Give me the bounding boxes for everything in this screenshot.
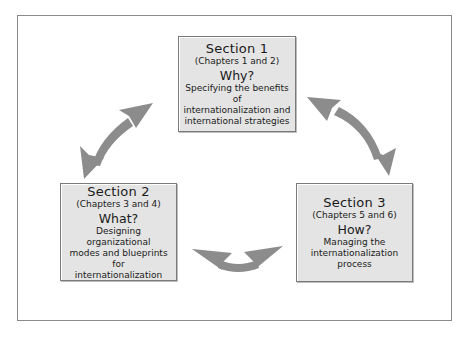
section-question: How? [338, 222, 372, 237]
section-question: What? [99, 211, 138, 226]
section-description: Managing the internationalization proces… [311, 237, 398, 270]
section-chapters: (Chapters 3 and 4) [76, 199, 161, 210]
bidirectional-arrow-icon [307, 97, 396, 176]
section-question: Why? [220, 68, 254, 83]
section-1-box: Section 1 (Chapters 1 and 2) Why? Specif… [178, 36, 296, 132]
section-title: Section 1 [206, 41, 269, 56]
section-title: Section 2 [87, 184, 150, 199]
bidirectional-arrow-icon [80, 103, 153, 179]
section-3-box: Section 3 (Chapters 5 and 6) How? Managi… [296, 183, 413, 282]
section-2-box: Section 2 (Chapters 3 and 4) What? Desig… [60, 183, 177, 281]
section-description: Designing organizational modes and bluep… [64, 226, 173, 281]
section-chapters: (Chapters 1 and 2) [195, 56, 280, 67]
section-description: Specifying the benefits of international… [182, 83, 292, 127]
section-chapters: (Chapters 5 and 6) [312, 210, 397, 221]
section-title: Section 3 [323, 195, 386, 210]
bidirectional-arrow-icon [192, 246, 283, 272]
